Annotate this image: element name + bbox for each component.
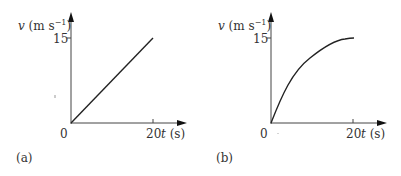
graph-panel-b: v (m s−1) 15 0 20 t (s) (b) <box>200 0 400 176</box>
x-axis-label: t (s) <box>361 128 385 140</box>
origin-label: 0 <box>260 128 268 140</box>
graph-panel-a: v (m s−1) 15 0 20 t (s) (a) <box>0 0 200 176</box>
y-tick-label: 15 <box>53 33 68 45</box>
y-axis-label: v (m s−1) <box>18 17 71 32</box>
x-tick-label: 20 <box>346 128 361 140</box>
panel-caption-b: (b) <box>216 152 233 164</box>
origin-label: 0 <box>60 128 68 140</box>
y-tick-label: 15 <box>253 33 268 45</box>
velocity-curve <box>271 38 354 123</box>
x-axis-arrow-icon <box>377 120 387 126</box>
x-tick-label: 20 <box>146 128 161 140</box>
x-axis-arrow-icon <box>177 120 187 126</box>
velocity-line <box>71 38 153 123</box>
y-axis-label: v (m s−1) <box>218 17 271 32</box>
x-axis-label: t (s) <box>161 128 185 140</box>
panel-caption-a: (a) <box>16 152 33 164</box>
